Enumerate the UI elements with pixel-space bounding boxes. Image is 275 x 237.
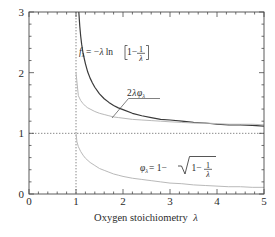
x-tick-label: 2 (120, 195, 126, 207)
f-lambda-fraction-numerator: 1 (139, 45, 143, 54)
x-tick-label: 0 (26, 195, 32, 207)
y-tick-labels: 0123 (19, 6, 25, 200)
phi-lambda-fraction-numerator: 1 (206, 161, 210, 170)
x-tick-label: 1 (73, 195, 79, 207)
f-lambda-lambda: λ (99, 47, 104, 57)
f-lambda-one-minus: 1− (127, 47, 137, 57)
x-axis-title-symbol: λ (192, 212, 198, 223)
f-lambda-fraction-denominator: λ (138, 54, 143, 63)
chart-figure: 012345 0123 Oxygen stoichiometry λ fλ= −… (0, 0, 275, 237)
x-tick-label: 4 (214, 195, 220, 207)
two-lambda-phi-subscript: λ (141, 92, 145, 99)
x-axis-title-text: Oxygen stoichiometry (94, 212, 188, 223)
x-tick-labels: 012345 (26, 195, 267, 207)
phi-lambda-fraction-denominator: λ (205, 170, 210, 179)
two-lambda-phi-two: 2 (127, 88, 132, 98)
phi-lambda-one-minus: 1− (192, 163, 202, 173)
f-lambda-equals: = − (86, 47, 99, 57)
phi-lambda-equals: = 1− (149, 163, 167, 173)
y-tick-label: 2 (19, 67, 25, 79)
x-tick-label: 3 (167, 195, 173, 207)
x-axis-title: Oxygen stoichiometry λ (94, 212, 198, 223)
y-tick-label: 0 (19, 188, 25, 200)
two-lambda-phi-lambda: λ (131, 88, 136, 98)
phi-lambda-expression: φλ= 1− (140, 163, 167, 174)
chart-canvas: 012345 0123 Oxygen stoichiometry λ fλ= −… (0, 0, 275, 237)
phi-lambda-subscript: λ (144, 167, 148, 174)
y-tick-label: 3 (19, 6, 25, 18)
y-tick-label: 1 (19, 127, 25, 139)
f-lambda-subscript: λ (81, 51, 85, 58)
f-lambda-ln: ln (106, 47, 114, 57)
x-tick-label: 5 (261, 195, 267, 207)
